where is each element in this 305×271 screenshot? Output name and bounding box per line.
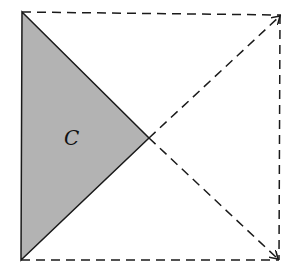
shaded-region-c (21, 12, 149, 260)
diagram-canvas (0, 0, 305, 271)
right-edge-dashed (279, 15, 280, 260)
diagonal-arrow-up-right (149, 16, 280, 138)
diagonal-arrow-down-right (149, 138, 278, 259)
region-label-c: C (64, 126, 79, 150)
top-edge-dashed (22, 12, 281, 15)
